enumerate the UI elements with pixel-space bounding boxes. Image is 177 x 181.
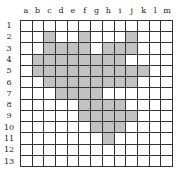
row-label-12: 12 xyxy=(2,145,16,154)
cell-f9 xyxy=(78,110,90,121)
row-label-2: 2 xyxy=(2,32,16,41)
cell-b7 xyxy=(32,87,44,98)
row-label-13: 13 xyxy=(2,157,16,166)
cell-k10 xyxy=(137,121,149,132)
column-label-c: c xyxy=(44,6,56,15)
cell-l5 xyxy=(149,65,161,76)
cell-j10 xyxy=(125,121,137,132)
column-label-j: j xyxy=(126,6,138,15)
cell-h2 xyxy=(102,31,114,42)
cell-h8 xyxy=(102,99,114,110)
column-label-g: g xyxy=(91,6,103,15)
cell-h3 xyxy=(102,42,114,53)
cell-a8 xyxy=(20,99,32,110)
cell-e10 xyxy=(67,121,79,132)
cell-m12 xyxy=(160,144,172,155)
cell-j5 xyxy=(125,65,137,76)
cell-f5 xyxy=(78,65,90,76)
cell-a2 xyxy=(20,31,32,42)
cell-e2 xyxy=(67,31,79,42)
cell-d3 xyxy=(55,42,67,53)
cell-b9 xyxy=(32,110,44,121)
cell-e1 xyxy=(67,20,79,31)
row-label-4: 4 xyxy=(2,55,16,64)
cell-f7 xyxy=(78,87,90,98)
cell-g8 xyxy=(90,99,102,110)
cell-c13 xyxy=(43,155,55,166)
cell-b6 xyxy=(32,76,44,87)
cell-b11 xyxy=(32,132,44,143)
cell-d13 xyxy=(55,155,67,166)
cell-e3 xyxy=(67,42,79,53)
cell-i8 xyxy=(114,99,126,110)
cell-d1 xyxy=(55,20,67,31)
cell-d9 xyxy=(55,110,67,121)
cell-g11 xyxy=(90,132,102,143)
cell-e9 xyxy=(67,110,79,121)
cell-a12 xyxy=(20,144,32,155)
cell-a10 xyxy=(20,121,32,132)
cell-f1 xyxy=(78,20,90,31)
cell-l12 xyxy=(149,144,161,155)
cell-c1 xyxy=(43,20,55,31)
cell-m4 xyxy=(160,54,172,65)
cell-b4 xyxy=(32,54,44,65)
cell-h13 xyxy=(102,155,114,166)
cell-c5 xyxy=(43,65,55,76)
cell-f3 xyxy=(78,42,90,53)
column-label-f: f xyxy=(79,6,91,15)
cell-k11 xyxy=(137,132,149,143)
cell-m3 xyxy=(160,42,172,53)
cell-l2 xyxy=(149,31,161,42)
cell-i2 xyxy=(114,31,126,42)
column-label-e: e xyxy=(67,6,79,15)
cell-h5 xyxy=(102,65,114,76)
cell-j3 xyxy=(125,42,137,53)
cell-k4 xyxy=(137,54,149,65)
cell-j9 xyxy=(125,110,137,121)
cell-l13 xyxy=(149,155,161,166)
cell-d4 xyxy=(55,54,67,65)
column-label-i: i xyxy=(114,6,126,15)
cell-b13 xyxy=(32,155,44,166)
cell-i6 xyxy=(114,76,126,87)
cell-i12 xyxy=(114,144,126,155)
cell-m11 xyxy=(160,132,172,143)
cell-k3 xyxy=(137,42,149,53)
cell-c12 xyxy=(43,144,55,155)
cell-d10 xyxy=(55,121,67,132)
cell-l7 xyxy=(149,87,161,98)
row-label-1: 1 xyxy=(2,21,16,30)
cell-g9 xyxy=(90,110,102,121)
cell-d8 xyxy=(55,99,67,110)
cell-g3 xyxy=(90,42,102,53)
cell-m8 xyxy=(160,99,172,110)
cell-i10 xyxy=(114,121,126,132)
column-label-k: k xyxy=(138,6,150,15)
cell-l11 xyxy=(149,132,161,143)
row-label-6: 6 xyxy=(2,78,16,87)
cell-b12 xyxy=(32,144,44,155)
cell-j8 xyxy=(125,99,137,110)
cell-e12 xyxy=(67,144,79,155)
cell-a6 xyxy=(20,76,32,87)
cell-c9 xyxy=(43,110,55,121)
row-label-8: 8 xyxy=(2,100,16,109)
cell-k8 xyxy=(137,99,149,110)
cell-j1 xyxy=(125,20,137,31)
row-label-7: 7 xyxy=(2,89,16,98)
cell-k13 xyxy=(137,155,149,166)
cell-j7 xyxy=(125,87,137,98)
cell-b3 xyxy=(32,42,44,53)
cell-i3 xyxy=(114,42,126,53)
cell-e5 xyxy=(67,65,79,76)
cell-k2 xyxy=(137,31,149,42)
cell-l6 xyxy=(149,76,161,87)
cell-d12 xyxy=(55,144,67,155)
cell-i7 xyxy=(114,87,126,98)
cell-f13 xyxy=(78,155,90,166)
row-label-11: 11 xyxy=(2,134,16,143)
cell-c8 xyxy=(43,99,55,110)
cell-e8 xyxy=(67,99,79,110)
row-label-10: 10 xyxy=(2,123,16,132)
